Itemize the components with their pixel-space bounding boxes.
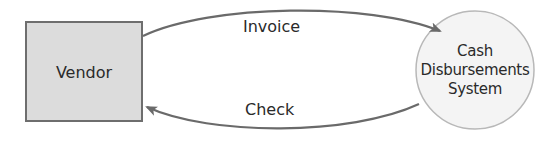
system-label-line-2: Disbursements	[421, 61, 530, 80]
cash-disbursements-system-label: Cash Disbursements System	[416, 12, 534, 128]
invoice-label: Invoice	[243, 17, 300, 36]
vendor-label-text: Vendor	[56, 63, 112, 82]
check-label: Check	[245, 100, 294, 119]
system-label-line-1: Cash	[457, 42, 493, 61]
system-label-line-3: System	[448, 80, 502, 99]
vendor-label: Vendor	[25, 22, 143, 122]
